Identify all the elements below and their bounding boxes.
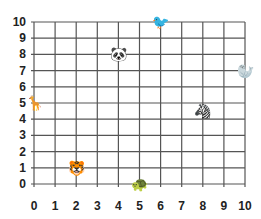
- y-tick-label: 9: [4, 32, 26, 44]
- x-tick-label: 5: [130, 200, 150, 212]
- y-tick-label: 7: [4, 65, 26, 77]
- x-tick-label: 10: [235, 200, 255, 212]
- y-tick-label: 4: [4, 113, 26, 125]
- zebra-icon: 🦓: [194, 104, 211, 118]
- x-tick-label: 7: [172, 200, 192, 212]
- x-tick-label: 1: [45, 200, 65, 212]
- y-tick-label: 10: [4, 16, 26, 28]
- x-tick-label: 6: [151, 200, 171, 212]
- bird-icon: 🐦: [152, 15, 169, 29]
- turtle-icon: 🐢: [131, 177, 148, 191]
- x-tick-label: 9: [214, 200, 234, 212]
- y-tick-label: 6: [4, 81, 26, 93]
- tiger-icon: 🐯: [68, 161, 85, 175]
- x-tick-label: 2: [66, 200, 86, 212]
- giraffe-icon: 🦒: [26, 96, 43, 110]
- panda-icon: 🐼: [110, 47, 127, 61]
- x-tick-label: 0: [24, 200, 44, 212]
- x-tick-label: 3: [87, 200, 107, 212]
- y-tick-label: 0: [4, 178, 26, 190]
- seal-icon: 🦭: [237, 64, 254, 78]
- x-tick-label: 8: [193, 200, 213, 212]
- y-tick-label: 2: [4, 146, 26, 158]
- x-tick-label: 4: [108, 200, 128, 212]
- y-tick-label: 3: [4, 129, 26, 141]
- y-tick-label: 8: [4, 48, 26, 60]
- y-tick-label: 5: [4, 97, 26, 109]
- y-tick-label: 1: [4, 162, 26, 174]
